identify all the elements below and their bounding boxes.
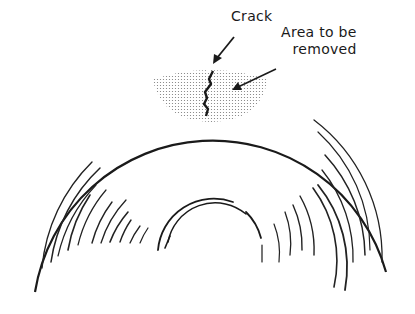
left-grain-lines [42, 162, 148, 268]
inner-bore-arcs [158, 199, 262, 262]
area-to-be-removed-label: Area to be removed [281, 24, 357, 58]
crack-label: Crack [231, 8, 272, 25]
area-label-line-1: Area to be [281, 24, 357, 41]
crack-leader-arrow [213, 37, 234, 64]
area-label-line-2: removed [281, 41, 357, 58]
outer-surface-arc [35, 141, 386, 292]
right-grain-lines [274, 120, 382, 290]
